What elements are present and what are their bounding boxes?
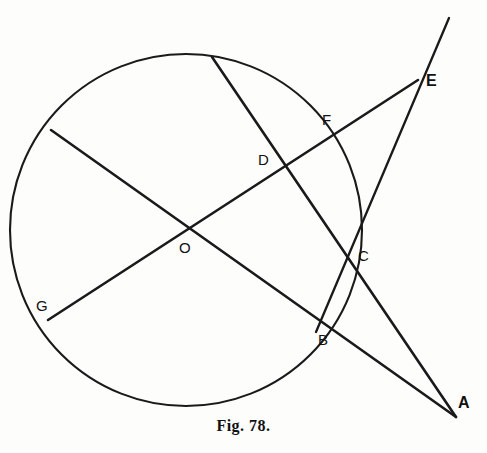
point-label-A: A xyxy=(458,395,470,411)
geometry-drawing xyxy=(0,0,487,453)
point-label-O: O xyxy=(179,240,191,255)
point-label-C: C xyxy=(358,248,369,263)
point-label-B: B xyxy=(318,332,328,347)
figure-caption: Fig. 78. xyxy=(0,417,487,435)
point-label-G: G xyxy=(36,298,48,313)
point-label-E: E xyxy=(426,73,437,89)
segment-B-C-to-E-extended xyxy=(316,18,449,332)
segment-G-to-E xyxy=(48,80,418,320)
segment-chord-left-to-A xyxy=(51,130,456,417)
point-label-D: D xyxy=(258,152,269,167)
point-label-F: F xyxy=(322,112,331,127)
figure-container: O G D F C B E A Fig. 78. xyxy=(0,0,487,453)
segment-chord-top-to-A xyxy=(212,57,456,417)
